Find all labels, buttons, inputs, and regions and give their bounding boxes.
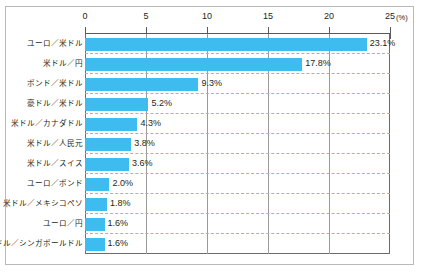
x-axis: (%) 0510152025 <box>0 0 421 36</box>
category-label: 米ドル／シンガポールドル <box>0 238 83 249</box>
chart-row: 9.3%ポンド／米ドル <box>85 74 390 94</box>
bar <box>85 118 137 131</box>
chart-figure: (%) 0510152025 23.1%ユーロ／米ドル17.8%米ドル／円9.3… <box>0 0 421 275</box>
chart-row: 4.3%米ドル／カナダドル <box>85 114 390 134</box>
chart-row: 23.1%ユーロ／米ドル <box>85 34 390 54</box>
bar-value-label: 3.8% <box>134 138 155 149</box>
category-label: ユーロ／米ドル <box>0 38 83 49</box>
x-tick-label: 10 <box>202 12 212 21</box>
x-tick-label: 25 <box>385 12 395 21</box>
category-label: ユーロ／円 <box>0 218 83 229</box>
bar <box>85 98 148 111</box>
bar <box>85 178 109 191</box>
category-label: 米ドル／カナダドル <box>0 118 83 129</box>
bar <box>85 158 129 171</box>
chart-row: 1.6%米ドル／シンガポールドル <box>85 234 390 254</box>
x-tick-label: 0 <box>82 12 87 21</box>
chart-row: 5.2%豪ドル／米ドル <box>85 94 390 114</box>
chart-row: 3.8%米ドル／人民元 <box>85 134 390 154</box>
category-label: 豪ドル／米ドル <box>0 98 83 109</box>
x-tick-label: 20 <box>324 12 334 21</box>
category-label: 米ドル／円 <box>0 58 83 69</box>
bar <box>85 78 198 91</box>
bar-value-label: 3.6% <box>132 158 153 169</box>
bar-value-label: 5.2% <box>151 98 172 109</box>
x-tick-label: 15 <box>263 12 273 21</box>
bar-value-label: 23.1% <box>370 38 396 49</box>
bar <box>85 238 105 251</box>
category-label: 米ドル／人民元 <box>0 138 83 149</box>
bar <box>85 138 131 151</box>
bar <box>85 198 107 211</box>
chart-row: 1.8%米ドル／メキシコペソ <box>85 194 390 214</box>
bar-value-label: 17.8% <box>305 58 331 69</box>
bar-value-label: 1.6% <box>108 238 129 249</box>
category-label: ユーロ／ポンド <box>0 178 83 189</box>
bar-value-label: 1.6% <box>108 218 129 229</box>
chart-row: 17.8%米ドル／円 <box>85 54 390 74</box>
bar-value-label: 4.3% <box>140 118 161 129</box>
chart-row: 1.6%ユーロ／円 <box>85 214 390 234</box>
category-label: ポンド／米ドル <box>0 78 83 89</box>
bar <box>85 38 367 51</box>
plot-area: 23.1%ユーロ／米ドル17.8%米ドル／円9.3%ポンド／米ドル5.2%豪ドル… <box>85 34 390 254</box>
x-axis-unit-label: (%) <box>396 14 408 22</box>
chart-row: 2.0%ユーロ／ポンド <box>85 174 390 194</box>
bar <box>85 58 302 71</box>
bar-value-label: 1.8% <box>110 198 131 209</box>
bar-value-label: 2.0% <box>112 178 133 189</box>
bar-value-label: 9.3% <box>201 78 222 89</box>
x-tick-label: 5 <box>143 12 148 21</box>
category-label: 米ドル／スイス <box>0 158 83 169</box>
bar <box>85 218 105 231</box>
category-label: 米ドル／メキシコペソ <box>0 198 83 209</box>
chart-row: 3.6%米ドル／スイス <box>85 154 390 174</box>
